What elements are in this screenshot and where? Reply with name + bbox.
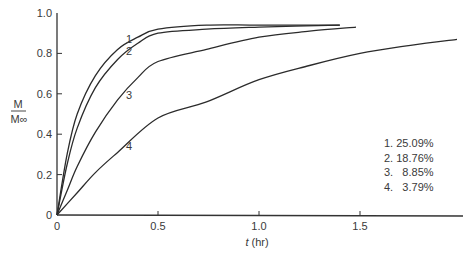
x-tick-label: 0 — [54, 220, 60, 232]
legend-item-3: 3. 8.85% — [384, 165, 434, 180]
legend: 1. 25.09% 2. 18.76% 3. 8.85% 4. 3.79% — [384, 136, 434, 194]
legend-item-4: 4. 3.79% — [384, 180, 434, 195]
legend-item-1: 1. 25.09% — [384, 136, 434, 151]
chart-container: 00.20.40.60.81.000.51.01.5t (hr)MM∞1234 … — [0, 0, 472, 261]
x-axis-label-unit: (hr) — [248, 236, 268, 248]
x-axis-label: t (hr) — [245, 236, 268, 248]
y-tick-label: 0.6 — [37, 88, 52, 100]
curve-label-1: 1 — [126, 33, 132, 45]
x-tick-label: 1.5 — [352, 220, 367, 232]
y-tick-label: 1.0 — [37, 7, 52, 19]
curve-label-2: 2 — [126, 45, 132, 57]
y-tick-label: 0.4 — [37, 128, 52, 140]
curve-3 — [57, 27, 356, 215]
curve-2 — [57, 25, 340, 215]
axis-labels: 00.20.40.60.81.000.51.01.5t (hr)MM∞1234 — [10, 7, 367, 248]
y-tick-label: 0.8 — [37, 47, 52, 59]
x-tick-label: 1.0 — [251, 220, 266, 232]
line-chart: 00.20.40.60.81.000.51.01.5t (hr)MM∞1234 — [0, 0, 472, 261]
x-tick-label: 0.5 — [150, 220, 165, 232]
legend-item-2: 2. 18.76% — [384, 151, 434, 166]
y-tick-label: 0.2 — [37, 169, 52, 181]
y-tick-label: 0 — [46, 209, 52, 221]
x-axis-line — [57, 215, 463, 216]
y-axis-label-numerator: M — [13, 98, 22, 110]
curve-label-4: 4 — [126, 140, 132, 152]
curve-label-3: 3 — [126, 89, 132, 101]
y-axis-label-denominator: M∞ — [10, 113, 27, 125]
curve-1 — [57, 25, 340, 215]
